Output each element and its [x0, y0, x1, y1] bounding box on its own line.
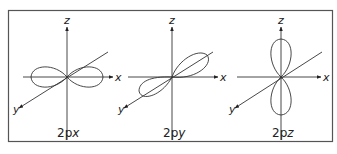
- y-label: y: [117, 103, 125, 116]
- x-label: x: [114, 71, 122, 84]
- p-orbitals-diagram: z x y 2px z x y 2py z x y 2pz: [0, 0, 337, 154]
- z-label: z: [277, 14, 284, 27]
- panel-2py: z x y 2py: [117, 14, 227, 140]
- panel-2pz: z x y 2pz: [228, 14, 330, 140]
- z-label: z: [63, 14, 70, 27]
- orbital-lobes: [139, 53, 209, 97]
- panel-2px: z x y 2px: [12, 14, 122, 140]
- z-label: z: [168, 14, 175, 27]
- x-label: x: [219, 71, 227, 84]
- caption-2px: 2px: [57, 126, 80, 140]
- caption-2py: 2py: [163, 126, 186, 140]
- y-axis: [124, 52, 213, 108]
- y-label: y: [228, 103, 236, 116]
- y-label: y: [12, 103, 20, 116]
- x-label: x: [322, 71, 330, 84]
- caption-2pz: 2pz: [272, 126, 294, 140]
